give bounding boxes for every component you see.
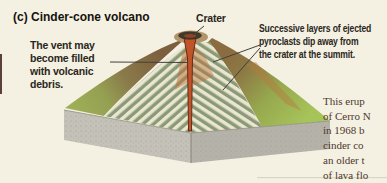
vent-annotation-line: The vent may (30, 39, 95, 52)
vent-annotation-line: with volcanic (30, 65, 95, 78)
vent-annotation: The vent may become filled with volcanic… (30, 39, 95, 91)
caption-line: of lava flo (323, 168, 371, 183)
vent-annotation-line: debris. (30, 78, 95, 91)
layers-annotation-line: pyroclasts dip away from (259, 35, 371, 48)
left-edge-artifact (0, 54, 2, 94)
layers-annotation-line: the crater at the summit. (259, 48, 371, 61)
caption-line: This erup (323, 94, 371, 109)
vent-leader-line (110, 62, 188, 63)
panel-letter: (c) (13, 10, 28, 24)
caption-text: This erup of Cerro N in 1968 b cinder co… (323, 94, 371, 182)
figure-title-text: Cinder-cone volcano (31, 10, 150, 24)
caption-line: an older t (323, 153, 371, 168)
caption-line: cinder co (323, 138, 371, 153)
crater-label: Crater (196, 12, 226, 25)
vent-annotation-line: become filled (30, 52, 95, 65)
caption-line: of Cerro N (323, 109, 371, 124)
caption-line: in 1968 b (323, 123, 371, 138)
figure-panel: (c) Cinder-cone volcano The vent may bec… (0, 0, 387, 183)
layers-annotation-line: Successive layers of ejected (259, 22, 371, 35)
layers-annotation: Successive layers of ejected pyroclasts … (259, 22, 371, 61)
figure-title: (c) Cinder-cone volcano (13, 11, 150, 24)
